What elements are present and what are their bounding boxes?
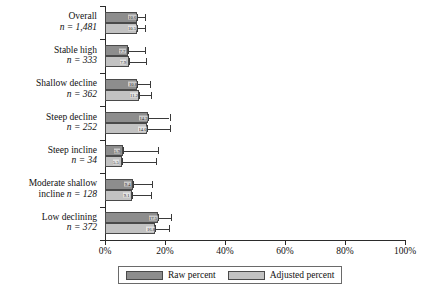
error-bar-cap [145, 47, 146, 54]
bar-row: 14.0 [105, 123, 405, 134]
category-name: Shallow decline [0, 78, 97, 89]
error-bar [137, 17, 145, 18]
error-bar [128, 51, 145, 52]
error-bar [155, 229, 169, 230]
error-bar-cap [151, 192, 152, 199]
bar-value-label: 10.8 [128, 82, 137, 87]
error-bar-cap [128, 47, 129, 54]
x-axis-line [105, 240, 406, 241]
legend-swatch-icon [126, 271, 163, 280]
error-bar [137, 84, 150, 85]
bar-row: 11.2 [105, 90, 405, 101]
category-label: Stable highn = 333 [0, 45, 97, 66]
category-name: Overall [0, 11, 97, 22]
legend-label: Raw percent [168, 270, 216, 280]
category-sample-size: n = 372 [0, 222, 97, 233]
bar-row: 7.9 [105, 56, 405, 67]
bar-row: 10.6 [105, 12, 405, 23]
x-axis-tick [165, 241, 166, 245]
bar-row: 17.5 [105, 212, 405, 223]
bar-value-label: 16.8 [146, 226, 155, 231]
error-bar-cap [169, 225, 170, 232]
error-bar-cap [158, 147, 159, 154]
bar-row: 16.8 [105, 223, 405, 234]
error-bar-cap [170, 114, 171, 121]
legend-label: Adjusted percent [270, 270, 335, 280]
error-bar-cap [171, 214, 172, 221]
error-bar-cap [137, 14, 138, 21]
bar-row: 9.1 [105, 190, 405, 201]
category-sample-size: n = 333 [0, 55, 97, 66]
error-bar-cap [155, 225, 156, 232]
x-axis-tick [405, 241, 406, 245]
bar-row: 9.4 [105, 179, 405, 190]
error-bar-cap [156, 158, 157, 165]
category-label: Steep declinen = 252 [0, 112, 97, 133]
error-bar-cap [132, 192, 133, 199]
category-label: Moderate shallowincline n = 128 [0, 178, 97, 199]
error-bar [133, 184, 152, 185]
error-bar-cap [122, 158, 123, 165]
error-bar-cap [145, 25, 146, 32]
bar-group: 10.811.2 [105, 79, 405, 101]
x-axis-tick [225, 241, 226, 245]
bar-group: 9.49.1 [105, 179, 405, 201]
error-bar-cap [137, 25, 138, 32]
category-name: Moderate shallow [0, 178, 97, 189]
error-bar [122, 162, 157, 163]
bar-value-label: 14.0 [138, 126, 147, 131]
bar-row: 7.7 [105, 45, 405, 56]
bar-value-label: 17.5 [149, 215, 158, 220]
error-bar [137, 28, 146, 29]
x-axis-tick-label: 0% [85, 246, 125, 257]
bar-group: 14.314.0 [105, 112, 405, 134]
category-label: Shallow declinen = 362 [0, 78, 97, 99]
error-bar-cap [170, 125, 171, 132]
error-bar-cap [129, 58, 130, 65]
error-bar-cap [123, 147, 124, 154]
bar-row: 5.9 [105, 145, 405, 156]
bar-row: 10.8 [105, 79, 405, 90]
error-bar-cap [146, 58, 147, 65]
chart-legend: Raw percentAdjusted percent [118, 266, 342, 284]
bar-value-label: 10.5 [128, 26, 137, 31]
bar-group: 5.95.5 [105, 145, 405, 167]
plot-area: 10.610.57.77.910.811.214.314.05.95.59.49… [105, 6, 405, 240]
legend-swatch-icon [228, 271, 265, 280]
bar-value-label: 5.5 [113, 159, 120, 164]
bar-group: 17.516.8 [105, 212, 405, 234]
bar-value-label: 5.9 [114, 148, 121, 153]
error-bar-cap [145, 14, 146, 21]
bar-row: 10.5 [105, 23, 405, 34]
error-bar [139, 95, 152, 96]
error-bar-cap [158, 214, 159, 221]
category-sample-size: n = 362 [0, 89, 97, 100]
category-label: Low decliningn = 372 [0, 212, 97, 233]
legend-item[interactable]: Adjusted percent [228, 270, 335, 280]
bar-value-label: 14.3 [139, 115, 148, 120]
error-bar [158, 218, 172, 219]
legend-item[interactable]: Raw percent [126, 270, 216, 280]
error-bar-cap [137, 81, 138, 88]
category-sample-size: incline n = 128 [39, 189, 97, 199]
error-bar [148, 118, 170, 119]
category-sample-size: n = 252 [0, 122, 97, 133]
x-axis-tick-label: 20% [145, 246, 185, 257]
error-bar-cap [147, 125, 148, 132]
bar-value-label: 7.7 [119, 48, 126, 53]
category-name: Steep incline [0, 145, 97, 156]
bar-value-label: 11.2 [130, 93, 139, 98]
bar-value-label: 10.6 [128, 15, 137, 20]
error-bar [147, 129, 170, 130]
x-axis-tick-label: 60% [265, 246, 305, 257]
x-axis-tick-label: 100% [385, 246, 421, 257]
category-sample-size: n = 1,481 [0, 22, 97, 33]
bar-value-label: 9.1 [123, 193, 130, 198]
bar-value-label: 9.4 [124, 182, 131, 187]
x-axis-tick-label: 40% [205, 246, 245, 257]
error-bar-cap [139, 92, 140, 99]
category-label: Steep inclinen = 34 [0, 145, 97, 166]
error-bar-cap [150, 81, 151, 88]
x-axis-tick-label: 80% [325, 246, 365, 257]
